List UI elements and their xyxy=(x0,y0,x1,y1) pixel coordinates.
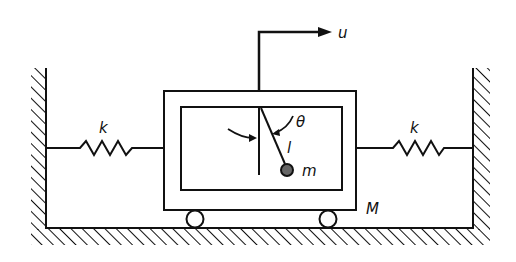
force-input-arrow xyxy=(259,27,332,91)
right-wall xyxy=(473,68,490,230)
wheel-left xyxy=(187,211,204,228)
wheel-right xyxy=(320,211,337,228)
bob-mass-label: m xyxy=(302,162,317,180)
force-label: u xyxy=(338,24,348,42)
angle-label: θ xyxy=(296,113,305,131)
spring-left-label: k xyxy=(99,119,109,137)
right-spring xyxy=(357,141,473,155)
pendulum-bob xyxy=(281,164,293,176)
left-wall xyxy=(31,68,46,230)
floor xyxy=(31,228,490,245)
cart-mass-label: M xyxy=(366,200,379,218)
spring-right-label: k xyxy=(410,119,420,137)
diagram-canvas: k k M u θ l m xyxy=(0,0,516,262)
left-spring xyxy=(46,141,163,155)
wheels xyxy=(187,211,337,228)
